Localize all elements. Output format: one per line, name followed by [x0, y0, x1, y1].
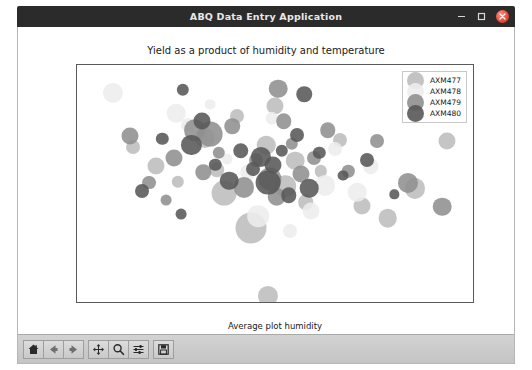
x-tick-label: 27.0 [259, 302, 277, 303]
legend-label: AXM478 [430, 86, 461, 97]
close-icon[interactable] [496, 10, 509, 23]
scatter-point [265, 156, 282, 173]
scatter-point [328, 142, 342, 156]
chart-title: Yield as a product of humidity and tempe… [18, 45, 514, 56]
scatter-point [320, 122, 336, 138]
scatter-point [176, 209, 187, 220]
scatter-point [220, 171, 239, 190]
scatter-point [378, 209, 397, 228]
y-tick-label: 23.8 [76, 135, 77, 144]
pan-button[interactable] [88, 340, 109, 359]
title-bar: ABQ Data Entry Application [17, 6, 515, 27]
home-icon [27, 343, 40, 356]
save-button[interactable] [153, 340, 174, 359]
legend-labels: AXM477AXM478AXM479AXM480 [430, 75, 461, 119]
tools-group [88, 340, 148, 359]
legend-label: AXM477 [430, 75, 461, 86]
scatter-point [166, 149, 183, 166]
scatter-point [348, 183, 367, 202]
scatter-point [205, 99, 216, 110]
legend-label: AXM480 [430, 108, 461, 119]
scatter-point [360, 153, 374, 167]
scatter-point [147, 158, 164, 175]
scatter-point [258, 286, 278, 303]
scatter-point [290, 128, 304, 142]
matplotlib-figure[interactable]: Yield as a product of humidity and tempe… [18, 27, 514, 334]
x-axis-label: Average plot humidity [76, 321, 474, 331]
scatter-point [296, 86, 312, 102]
chart-legend: AXM477AXM478AXM479AXM480 [402, 71, 467, 123]
y-tick-label: 23.7 [76, 184, 77, 193]
x-tick-label: 26.0 [89, 302, 107, 303]
window-controls [456, 6, 509, 27]
home-button[interactable] [23, 340, 44, 359]
plot-area[interactable]: 23.523.623.723.823.926.026.527.027.528.0… [76, 64, 474, 303]
x-tick-label: 28.0 [430, 302, 448, 303]
window-title: ABQ Data Entry Application [190, 11, 342, 22]
scatter-point [433, 197, 452, 216]
scatter-point [281, 188, 297, 204]
y-tick-label: 23.5 [76, 283, 77, 292]
floppy-disk-icon [157, 343, 170, 356]
window-body: Yield as a product of humidity and tempe… [17, 27, 515, 364]
scatter-point [302, 202, 319, 219]
sliders-icon [132, 343, 145, 356]
legend-marker [407, 105, 424, 122]
arrow-right-icon [67, 343, 80, 356]
scatter-point [193, 113, 210, 130]
scatter-point [300, 179, 319, 198]
back-button[interactable] [43, 340, 64, 359]
scatter-point [439, 132, 456, 149]
navigation-group [23, 340, 83, 359]
scatter-point [276, 114, 292, 130]
scatter-point [370, 134, 384, 148]
x-tick-label: 26.5 [174, 302, 192, 303]
scatter-point [121, 127, 138, 144]
scatter-point [247, 205, 269, 227]
configure-subplots-button[interactable] [128, 340, 149, 359]
application-window: ABQ Data Entry Application Yield as a pr… [0, 0, 532, 370]
legend-label: AXM479 [430, 97, 461, 108]
maximize-icon[interactable] [476, 11, 487, 22]
x-tick-label: 27.5 [345, 302, 363, 303]
scatter-point [233, 143, 249, 159]
scatter-point [160, 195, 171, 206]
legend-markers [406, 75, 428, 119]
y-tick-label: 23.9 [76, 85, 77, 94]
scatter-point [283, 224, 297, 238]
scatter-point [256, 170, 281, 195]
move-icon [92, 343, 105, 356]
scatter-point [225, 118, 241, 134]
magnifier-icon [112, 343, 125, 356]
scatter-point [269, 79, 288, 98]
file-group [153, 340, 173, 359]
navigation-toolbar [18, 334, 514, 363]
zoom-button[interactable] [108, 340, 129, 359]
scatter-point [135, 184, 149, 198]
scatter-point [338, 170, 349, 181]
y-tick-label: 23.6 [76, 233, 77, 242]
arrow-left-icon [47, 343, 60, 356]
forward-button[interactable] [63, 340, 84, 359]
minimize-icon[interactable] [456, 11, 467, 22]
